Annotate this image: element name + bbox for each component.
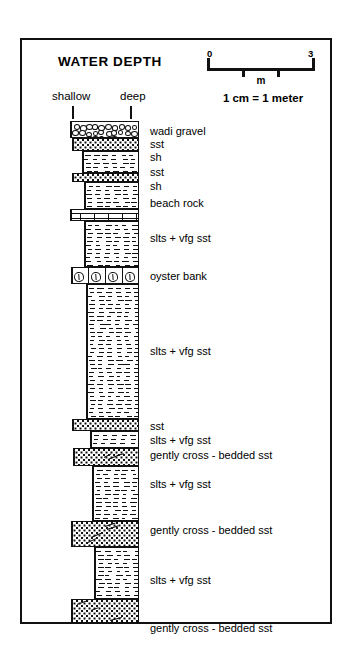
shale-dash [131,202,137,203]
shale-dash [134,372,138,373]
shale-dash [87,241,93,242]
shale-dash [90,396,94,397]
shale-dash [135,591,139,592]
cross-bedding-stroke [110,617,122,621]
bed-sandstone [72,173,139,182]
shale-dash [132,253,138,254]
shale-dash [91,336,95,337]
shale-dash [134,308,138,309]
shale-dash [87,253,92,254]
bed-left-edge [90,432,92,447]
cross-bedding-stroke [107,525,118,530]
scale-bar-line [207,68,315,71]
shale-dash [113,482,119,483]
shale-dash [99,563,103,564]
shale-dash [134,380,139,381]
lithology-label: sh [150,152,162,164]
shale-dash [107,352,112,353]
scale-label-end: 3 [308,48,313,59]
shale-dash [98,400,103,401]
shale-dash [96,579,102,580]
shale-dash [115,563,119,564]
shale-dash [115,237,121,238]
shale-dash [135,364,139,365]
shale-dash [117,296,122,297]
shale-dash [117,312,121,313]
shale-dash [122,506,127,507]
shale-dash [121,490,127,491]
bed-shale [82,151,139,173]
shale-dash [125,300,131,301]
bed-cross-bedded-sandstone [71,521,139,547]
shale-dash [135,344,139,345]
pebble-symbol [125,125,131,130]
shale-dash [125,583,131,584]
shale-dash [124,249,130,250]
shale-dash [108,296,112,297]
shale-dash [97,470,103,471]
scale-tick-0 [207,58,210,71]
shale-dash [125,595,129,596]
shale-dash [96,498,102,499]
shale-dash [106,245,110,246]
shale-dash [97,198,101,199]
shale-dash [98,559,104,560]
shale-dash [134,356,139,357]
shale-dash [133,478,138,479]
shale-dash [125,384,131,385]
shale-dash [124,380,129,381]
pebble-symbol [118,130,124,135]
shale-dash [86,194,92,195]
pebble-symbol [111,130,117,135]
shale-dash [117,344,122,345]
shale-dash [125,288,131,289]
scale-tick-3 [312,58,315,71]
shale-dash [89,376,93,377]
shale-dash [90,364,95,365]
oyster-shell-symbol [124,271,136,283]
shale-dash [113,167,118,168]
shale-dash [116,404,122,405]
shale-dash [95,194,100,195]
shale-dash [124,567,130,568]
shale-dash [99,571,104,572]
bed-siltstone [86,284,139,419]
shale-dash [134,296,139,297]
shale-dash [105,502,111,503]
shale-dash [88,249,93,250]
shale-dash [104,198,109,199]
shale-dash [124,396,130,397]
shale-dash [103,518,108,519]
shale-dash [135,551,139,552]
shale-dash [105,229,110,230]
shale-dash [126,376,130,377]
shale-dash [113,506,118,507]
shale-dash [97,332,102,333]
shale-dash [124,364,130,365]
shale-dash [124,336,128,337]
shale-dash [103,439,108,440]
shale-dash [122,261,128,262]
shale-dash [135,340,139,341]
shale-dash [115,583,120,584]
shale-dash [125,304,129,305]
shale-dash [135,400,139,401]
oyster-shell-symbol [73,271,85,283]
shale-dash [106,591,111,592]
shale-dash [99,416,104,417]
shale-dash [133,261,138,262]
shale-dash [113,502,118,503]
axis-label-shallow: shallow [52,90,90,102]
shale-dash [97,595,102,596]
shale-dash [98,575,104,576]
cross-bedding-stroke [117,453,124,456]
shale-dash [123,494,127,495]
shale-dash [88,233,93,234]
shale-dash [106,249,110,250]
oyster-shell-symbol [90,271,102,283]
shale-dash [117,352,121,353]
shale-dash [124,257,129,258]
oyster-shell-symbol [107,271,119,283]
shale-dash [99,296,105,297]
cross-bedding-stroke [86,538,97,544]
